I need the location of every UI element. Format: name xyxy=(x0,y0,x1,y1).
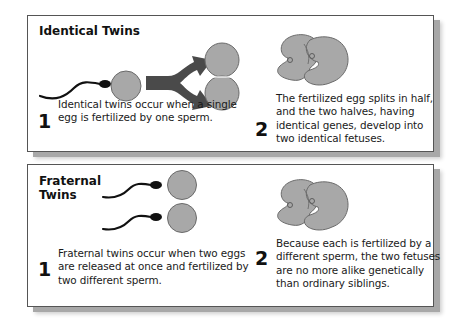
sperm-icon xyxy=(101,211,161,233)
step-description: Fraternal twins occur when two eggs are … xyxy=(58,247,253,287)
panel-title: Identical Twins xyxy=(39,24,140,38)
panel-title-line: Twins xyxy=(39,188,77,202)
step-description: Because each is fertilized by a differen… xyxy=(276,237,441,291)
panel-title-line: Fraternal xyxy=(39,174,101,188)
step-number: 2 xyxy=(255,118,268,140)
two-fetuses-icon xyxy=(274,32,350,88)
step-number: 1 xyxy=(38,110,51,132)
step-description: Identical twins occur when a single egg … xyxy=(58,98,248,125)
identical-twins-panel: Identical Twins 1 Identical twins occur … xyxy=(27,15,434,152)
step-description: The fertilized egg splits in half, and t… xyxy=(276,92,436,146)
egg-icon xyxy=(167,203,199,235)
sperm-icon xyxy=(101,179,161,201)
step-number: 2 xyxy=(255,247,268,269)
panel-title: Fraternal Twins xyxy=(39,174,101,202)
fraternal-twins-panel: Fraternal Twins 1 Fraternal twins occur … xyxy=(27,164,434,307)
egg-icon xyxy=(167,170,199,202)
step-number: 1 xyxy=(38,258,51,280)
two-fetuses-icon xyxy=(274,177,350,233)
